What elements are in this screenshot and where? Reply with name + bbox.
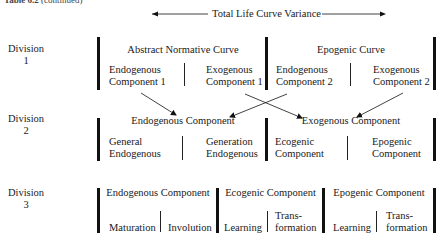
item-line2: Component 1 [206,76,263,88]
division-2-bar-middle [265,118,268,161]
exogenous-component-1: Exogenous Component 1 [206,64,263,88]
arrow-endo1-to-endo [141,93,176,115]
item-line1: Trans- [386,210,427,222]
division-3-divider-2 [267,211,268,232]
item-line2: Maturation [109,222,156,234]
item-line1: Generation [206,136,258,148]
division-3-divider-3 [376,211,377,232]
item-line2: Component [275,148,324,160]
item-line1: Trans- [275,210,316,222]
division-2-bar-right [433,118,436,161]
arrow-exo2-to-exo [357,93,403,117]
ecogenic-component: Ecogenic Component [275,136,324,160]
general-endogenous: General Endogenous [109,136,161,160]
division-label-text: Division [6,113,46,125]
arrow-endo2-to-endo [230,94,287,117]
division-3-divider-1 [160,211,161,232]
involution: Involution [168,210,212,234]
epogenic-curve-title: Epogenic Curve [269,44,433,56]
division-1-bar-left [97,37,100,90]
item-line1 [224,210,262,222]
ecogenic-component-title: Ecogenic Component [219,187,322,199]
division-2-label: Division 2 [6,113,46,137]
division-number: 3 [6,199,46,211]
division-label-text: Division [6,187,46,199]
division-3-label: Division 3 [6,187,46,211]
division-label-text: Division [6,43,46,55]
division-1-label: Division 1 [6,43,46,67]
generation-endogenous: Generation Endogenous [206,136,258,160]
division-2-divider-left [182,136,183,160]
division-number: 2 [6,125,46,137]
exogenous-component-2: Exogenous Component 2 [373,64,430,88]
ecogenic-learning: Learning [224,210,262,234]
endogenous-component-title-div3: Endogenous Component [100,187,216,199]
exogenous-component-title: Exogenous Component [269,115,433,127]
item-line2: Learning [333,222,371,234]
epogenic-transformation: Trans- formation [386,210,427,234]
item-line1 [333,210,371,222]
item-line2: formation [275,222,316,234]
ecogenic-transformation: Trans- formation [275,210,316,234]
division-1-divider-right [350,63,351,86]
item-line2: Endogenous [206,148,258,160]
item-line2: Component 1 [109,76,166,88]
item-line2: Component 2 [276,76,333,88]
division-1-bar-middle [265,37,268,90]
item-line2: Learning [224,222,262,234]
epogenic-component-title: Epogenic Component [325,187,433,199]
abstract-normative-curve-title: Abstract Normative Curve [101,44,265,56]
item-line2: Endogenous [109,148,161,160]
maturation: Maturation [109,210,156,234]
epogenic-component: Epogenic Component [372,136,421,160]
total-variance-title: Total Life Curve Variance [212,8,321,20]
item-line1: Exogenous [206,64,263,76]
item-line1 [109,210,156,222]
item-line1: General [109,136,161,148]
item-line2: formation [386,222,427,234]
endogenous-component-title: Endogenous Component [101,115,265,127]
item-line2: Component 2 [373,76,430,88]
endogenous-component-1: Endogenous Component 1 [109,64,166,88]
division-1-bar-right [433,37,436,90]
division-3-bar-4 [433,188,436,233]
item-line1: Epogenic [372,136,421,148]
epogenic-learning: Learning [333,210,371,234]
endogenous-component-2: Endogenous Component 2 [276,64,333,88]
item-line1: Ecogenic [275,136,324,148]
item-line2: Involution [168,222,212,234]
division-number: 1 [6,55,46,67]
item-line1 [168,210,212,222]
item-line1: Exogenous [373,64,430,76]
division-1-divider-left [184,63,185,86]
division-2-bar-left [97,118,100,161]
item-line2: Component [372,148,421,160]
item-line1: Endogenous [276,64,333,76]
item-line1: Endogenous [109,64,166,76]
division-2-divider-right [347,136,348,160]
